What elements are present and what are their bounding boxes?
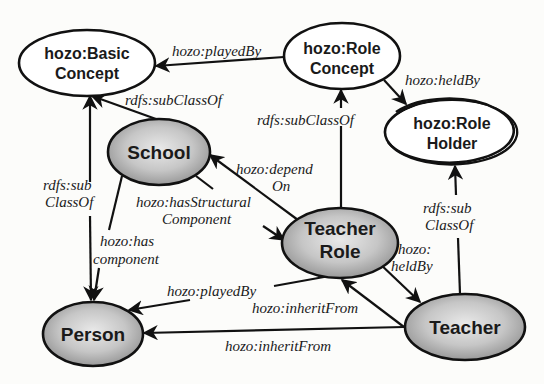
label-teacher-subclass-line1: rdfs:sub — [423, 200, 472, 216]
node-basic-concept[interactable]: hozo:Basic Concept — [19, 30, 155, 96]
node-role-holder[interactable]: hozo:Role Holder — [385, 99, 517, 165]
node-teacher-role-line1: Teacher — [304, 218, 376, 239]
node-role-holder-line1: hozo:Role — [413, 115, 490, 132]
label-rolecon-playedby: hozo:playedBy — [172, 43, 261, 59]
label-dependon-line1: hozo:depend — [236, 161, 313, 177]
node-teacher-role[interactable]: Teacher Role — [282, 208, 398, 278]
node-person[interactable]: Person — [43, 302, 143, 366]
node-role-holder-line2: Holder — [427, 135, 478, 152]
node-teacher-label: Teacher — [429, 317, 501, 338]
label-inherit-person: hozo:inheritFrom — [225, 338, 331, 354]
node-role-concept-line2: Concept — [310, 60, 375, 77]
node-role-concept[interactable]: hozo:Role Concept — [284, 23, 400, 89]
diagram-canvas: hozo:Basic Concept hozo:Role Concept hoz… — [0, 0, 544, 384]
node-basic-concept-line1: hozo:Basic — [44, 45, 129, 62]
node-basic-concept-line2: Concept — [55, 65, 120, 82]
node-school[interactable]: School — [108, 119, 210, 185]
label-teacherrole-heldby-line1: hozo: — [398, 241, 431, 257]
label-teacher-subclass-line2: ClassOf — [425, 217, 475, 233]
edge-person-subclass-basic-lower — [90, 216, 91, 300]
label-dependon-line2: On — [272, 178, 290, 194]
node-teacher-role-line2: Role — [319, 241, 360, 262]
ontology-diagram: hozo:Basic Concept hozo:Role Concept hoz… — [0, 0, 544, 384]
label-school-subclass: rdfs:subClassOf — [125, 92, 224, 108]
edge-teacher-subclass-holder-head — [455, 166, 456, 195]
node-person-label: Person — [61, 324, 125, 345]
label-teacherrole-subclass: rdfs:subClassOf — [257, 112, 356, 128]
node-role-concept-line1: hozo:Role — [303, 40, 380, 57]
label-hascomponent-line2: component — [93, 251, 160, 267]
label-person-subclass-line1: rdfs:sub — [43, 177, 92, 193]
label-inherit-teacherrole: hozo:inheritFrom — [252, 300, 358, 316]
label-person-subclass-line2: ClassOf — [45, 194, 95, 210]
label-hasstructural-line2: Component — [162, 211, 232, 227]
label-teacherrole-heldby-line2: heldBy — [391, 258, 433, 274]
label-hasstructural-line1: hozo:hasStructural — [136, 194, 251, 210]
label-rolecon-heldby: hozo:heldBy — [405, 72, 480, 88]
node-teacher[interactable]: Teacher — [405, 294, 525, 360]
node-school-label: School — [127, 142, 190, 163]
label-hascomponent-line1: hozo:has — [100, 233, 154, 249]
label-teacherrole-playedby: hozo:playedBy — [167, 283, 256, 299]
